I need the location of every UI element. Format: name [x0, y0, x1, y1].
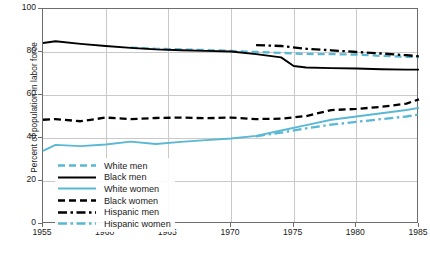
- series-line-white-women: [43, 108, 419, 151]
- legend-item: Hispanic women: [57, 218, 171, 230]
- x-axis-tick-label: 1980: [346, 227, 365, 237]
- x-axis-tick-label: 1970: [220, 227, 239, 237]
- x-axis-tick-label: 1975: [283, 227, 302, 237]
- legend-label: Black women: [97, 196, 158, 206]
- legend-item: White women: [57, 183, 171, 195]
- legend-swatch-icon: [57, 218, 97, 229]
- legend-swatch-icon: [57, 160, 97, 171]
- series-line-hispanic-men: [256, 45, 419, 56]
- legend-item: White men: [57, 160, 171, 172]
- legend-label: Hispanic men: [97, 207, 159, 217]
- legend-label: White women: [97, 184, 159, 194]
- legend-swatch-icon: [57, 183, 97, 194]
- legend-label: Hispanic women: [97, 219, 171, 229]
- series-line-black-women: [43, 99, 419, 121]
- legend-item: Black men: [57, 172, 171, 184]
- legend-swatch-icon: [57, 195, 97, 206]
- x-axis-tick-label: 1985: [408, 227, 427, 237]
- legend-label: Black men: [97, 172, 146, 182]
- y-axis-tick-label: 80: [8, 45, 36, 55]
- y-axis-tick-label: 20: [8, 174, 36, 184]
- legend-swatch-icon: [57, 207, 97, 218]
- line-chart: Percent of population in labor force 020…: [0, 0, 430, 256]
- legend: White menBlack menWhite womenBlack women…: [55, 158, 175, 232]
- legend-item: Hispanic men: [57, 206, 171, 218]
- x-axis-tick-label: 1955: [32, 227, 51, 237]
- y-axis-tick-label: 100: [8, 2, 36, 12]
- legend-item: Black women: [57, 195, 171, 207]
- legend-label: White men: [97, 161, 147, 171]
- y-axis-tick-label: 0: [8, 217, 36, 227]
- y-axis-tick-label: 60: [8, 88, 36, 98]
- series-line-hispanic-women: [256, 114, 419, 136]
- y-axis-tick-label: 40: [8, 131, 36, 141]
- legend-swatch-icon: [57, 172, 97, 183]
